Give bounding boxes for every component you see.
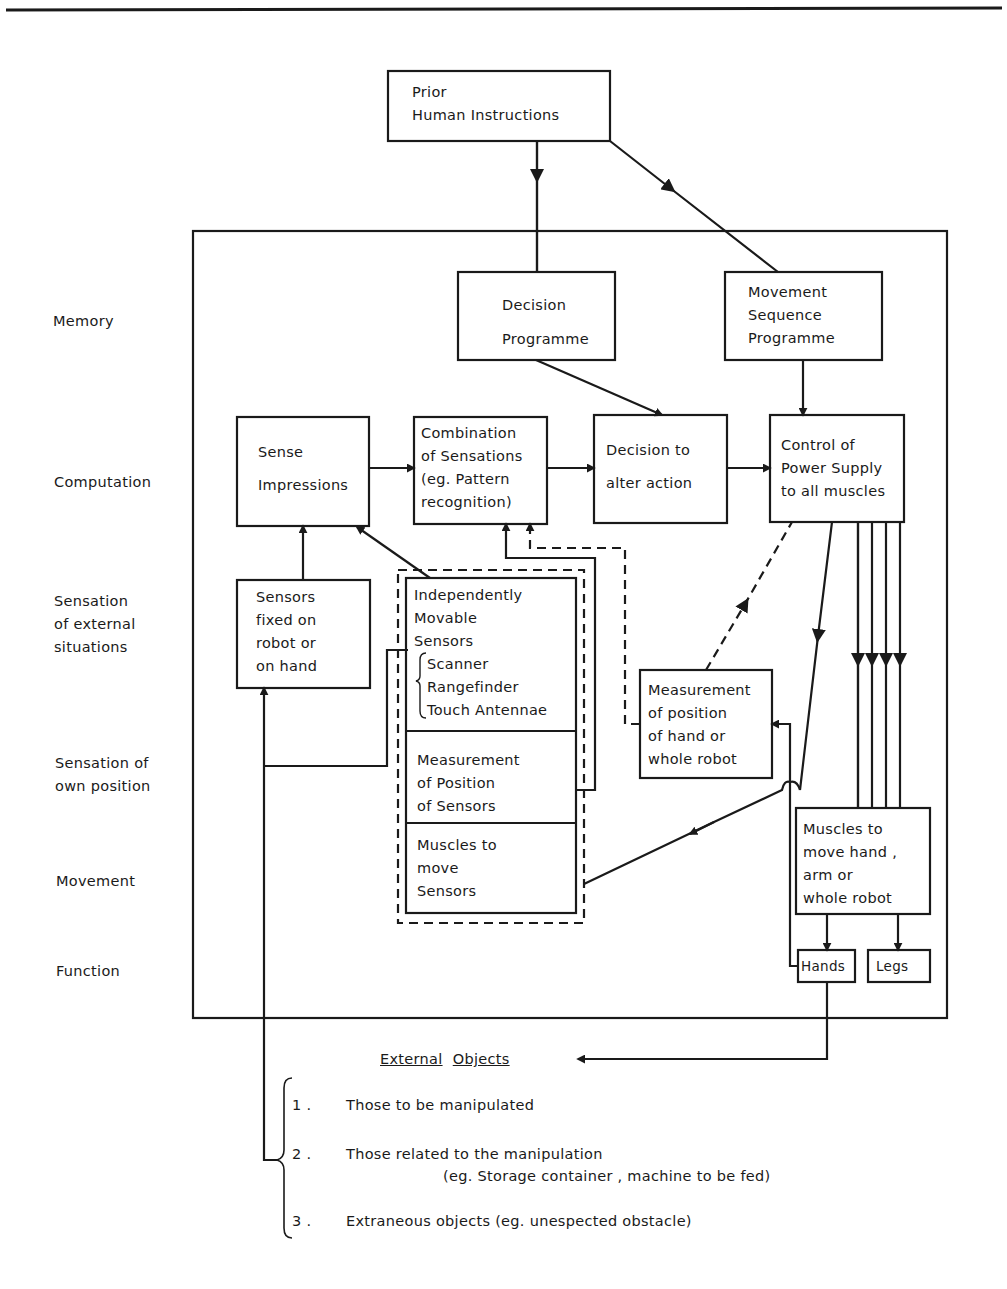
external-item-3: 3 .Extraneous objects (eg. unespected ob… xyxy=(292,1213,692,1229)
external-item-2: 2 .Those related to the manipulation xyxy=(292,1146,603,1162)
external-objects-title: External Objects xyxy=(380,1049,510,1068)
movement-sequence-text: Movement Sequence Programme xyxy=(748,281,835,350)
row-label-computation: Computation xyxy=(54,471,151,494)
sensors-fixed-text: Sensors fixed on robot or on hand xyxy=(256,586,317,678)
row-label-sensation-own: Sensation of own position xyxy=(55,752,151,798)
row-label-function: Function xyxy=(56,960,120,983)
row-label-sensation-external: Sensation of external situations xyxy=(54,590,136,659)
combination-text: Combination of Sensations (eg. Pattern r… xyxy=(421,422,523,514)
prior-instructions-text: Prior Human Instructions xyxy=(412,81,559,127)
decision-alter-text: Decision to alter action xyxy=(606,434,692,500)
independent-sensors-text: Independently Movable Sensors Scanner Ra… xyxy=(414,584,547,722)
header-rule xyxy=(6,8,1002,10)
hands-text: Hands xyxy=(801,955,845,978)
muscles-hand-text: Muscles to move hand , arm or whole robo… xyxy=(803,818,897,910)
measure-sensors-text: Measurement of Position of Sensors xyxy=(417,749,520,818)
legs-text: Legs xyxy=(876,955,908,978)
list-brace xyxy=(277,1078,292,1238)
sense-impressions-text: Sense Impressions xyxy=(258,436,348,502)
control-power-text: Control of Power Supply to all muscles xyxy=(781,434,885,503)
muscles-sensors-text: Muscles to move Sensors xyxy=(417,834,497,903)
measure-hand-text: Measurement of position of hand or whole… xyxy=(648,679,751,771)
external-item-2-sub: (eg. Storage container , machine to be f… xyxy=(443,1168,770,1184)
row-label-memory: Memory xyxy=(53,310,114,333)
decision-programme-text: Decision Programme xyxy=(502,288,589,356)
row-label-movement: Movement xyxy=(56,870,135,893)
external-item-1: 1 .Those to be manipulated xyxy=(292,1097,534,1113)
